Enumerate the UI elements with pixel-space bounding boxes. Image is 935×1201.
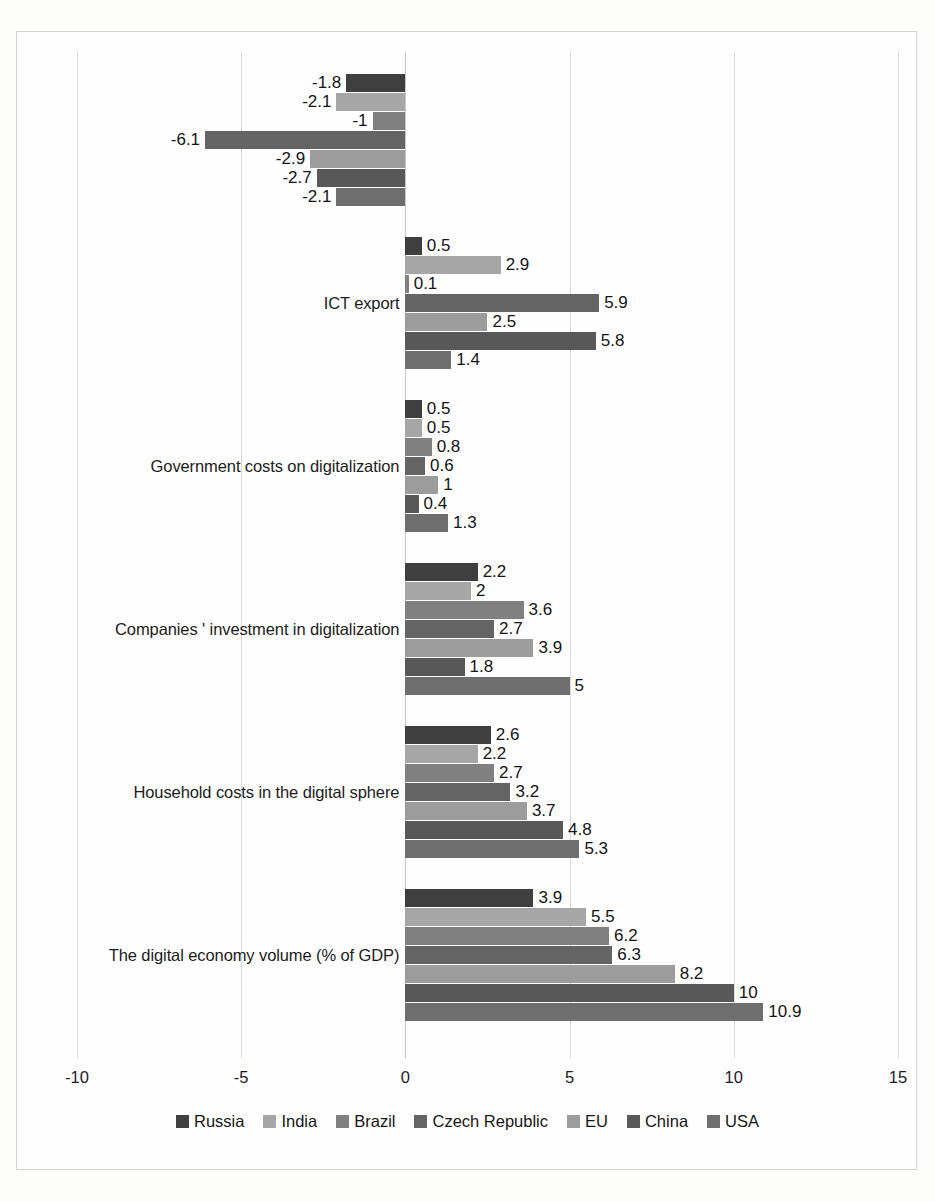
bar-eu[interactable]: 3.9 bbox=[405, 639, 533, 657]
bar-group: The digital economy volume (% of GDP)3.9… bbox=[17, 873, 918, 1036]
bar-value-label: 2.7 bbox=[499, 763, 523, 783]
bar-eu[interactable]: 1 bbox=[405, 476, 438, 494]
bar-value-label: 1.3 bbox=[453, 513, 477, 533]
bar-russia[interactable]: 2.6 bbox=[405, 726, 490, 744]
bar-value-label: 10 bbox=[739, 983, 758, 1003]
bar-brazil[interactable]: 6.2 bbox=[405, 927, 609, 945]
bar-russia[interactable]: 2.2 bbox=[405, 563, 477, 581]
bar-india[interactable]: 2 bbox=[405, 582, 471, 600]
bar-russia[interactable]: -1.8 bbox=[346, 74, 405, 92]
bar-value-label: -2.1 bbox=[302, 187, 331, 207]
bar-czech-republic[interactable]: 5.9 bbox=[405, 294, 599, 312]
legend-swatch-icon bbox=[567, 1115, 580, 1128]
bar-row: 0.5 bbox=[17, 237, 918, 255]
bar-row: 1.4 bbox=[17, 351, 918, 369]
bar-value-label: 2.7 bbox=[499, 619, 523, 639]
bar-row: -1.8 bbox=[17, 74, 918, 92]
bar-czech-republic[interactable]: -6.1 bbox=[205, 131, 405, 149]
bar-row: 2.2 bbox=[17, 745, 918, 763]
bar-value-label: 6.2 bbox=[614, 926, 638, 946]
bar-value-label: 3.9 bbox=[538, 638, 562, 658]
bar-value-label: -2.7 bbox=[282, 168, 311, 188]
bar-row: -2.1 bbox=[17, 188, 918, 206]
bar-row: 5.9 bbox=[17, 294, 918, 312]
bar-row: 2.5 bbox=[17, 313, 918, 331]
x-tick-label: 10 bbox=[725, 1068, 743, 1087]
bar-india[interactable]: -2.1 bbox=[336, 93, 405, 111]
bar-china[interactable]: 5.8 bbox=[405, 332, 595, 350]
bar-china[interactable]: 10 bbox=[405, 984, 733, 1002]
legend-item-brazil[interactable]: Brazil bbox=[336, 1112, 395, 1131]
bar-india[interactable]: 0.5 bbox=[405, 419, 421, 437]
bar-eu[interactable]: 2.5 bbox=[405, 313, 487, 331]
bar-value-label: 0.5 bbox=[427, 399, 451, 419]
bar-brazil[interactable]: 0.1 bbox=[405, 275, 408, 293]
legend-item-russia[interactable]: Russia bbox=[176, 1112, 244, 1131]
legend-item-usa[interactable]: USA bbox=[707, 1112, 759, 1131]
bar-china[interactable]: 4.8 bbox=[405, 821, 563, 839]
bar-row: 0.5 bbox=[17, 400, 918, 418]
bar-usa[interactable]: 5 bbox=[405, 677, 569, 695]
bar-value-label: 5.8 bbox=[601, 331, 625, 351]
bar-india[interactable]: 5.5 bbox=[405, 908, 586, 926]
bar-value-label: 1 bbox=[443, 475, 452, 495]
bar-brazil[interactable]: 0.8 bbox=[405, 438, 431, 456]
bar-usa[interactable]: 1.4 bbox=[405, 351, 451, 369]
bar-group: Household costs in the digital sphere2.6… bbox=[17, 710, 918, 873]
bar-eu[interactable]: 8.2 bbox=[405, 965, 674, 983]
bar-brazil[interactable]: 3.6 bbox=[405, 601, 523, 619]
legend-swatch-icon bbox=[707, 1115, 720, 1128]
bar-czech-republic[interactable]: 6.3 bbox=[405, 946, 612, 964]
bar-value-label: 3.2 bbox=[515, 782, 539, 802]
bar-group: ICT export0.52.90.15.92.55.81.4 bbox=[17, 221, 918, 384]
bar-row: 0.8 bbox=[17, 438, 918, 456]
bar-brazil[interactable]: 2.7 bbox=[405, 764, 494, 782]
chart-container: ICT import-1.8-2.1-1-6.1-2.9-2.7-2.1ICT … bbox=[16, 31, 917, 1170]
bar-row: 3.9 bbox=[17, 889, 918, 907]
bar-china[interactable]: 1.8 bbox=[405, 658, 464, 676]
bar-czech-republic[interactable]: 0.6 bbox=[405, 457, 425, 475]
legend-item-china[interactable]: China bbox=[627, 1112, 688, 1131]
bar-row: 5.5 bbox=[17, 908, 918, 926]
bar-value-label: 2 bbox=[476, 581, 485, 601]
bar-china[interactable]: -2.7 bbox=[317, 169, 406, 187]
bar-value-label: 3.6 bbox=[529, 600, 553, 620]
legend-swatch-icon bbox=[414, 1115, 427, 1128]
bar-usa[interactable]: 5.3 bbox=[405, 840, 579, 858]
bar-usa[interactable]: 1.3 bbox=[405, 514, 448, 532]
bar-group: Companies ' investment in digitalization… bbox=[17, 547, 918, 710]
legend-label: USA bbox=[725, 1112, 759, 1131]
bar-row: 0.1 bbox=[17, 275, 918, 293]
legend-item-eu[interactable]: EU bbox=[567, 1112, 608, 1131]
bar-row: -2.7 bbox=[17, 169, 918, 187]
bar-eu[interactable]: -2.9 bbox=[310, 150, 405, 168]
bar-row: 0.4 bbox=[17, 495, 918, 513]
bar-value-label: 0.1 bbox=[414, 274, 438, 294]
bar-czech-republic[interactable]: 2.7 bbox=[405, 620, 494, 638]
bar-row: 3.7 bbox=[17, 802, 918, 820]
x-tick-label: -10 bbox=[65, 1068, 89, 1087]
bar-india[interactable]: 2.9 bbox=[405, 256, 500, 274]
bar-row: 1 bbox=[17, 476, 918, 494]
bar-china[interactable]: 0.4 bbox=[405, 495, 418, 513]
bar-usa[interactable]: -2.1 bbox=[336, 188, 405, 206]
bar-eu[interactable]: 3.7 bbox=[405, 802, 527, 820]
legend-item-india[interactable]: India bbox=[263, 1112, 317, 1131]
bar-value-label: -6.1 bbox=[171, 130, 200, 150]
bar-value-label: -1.8 bbox=[312, 73, 341, 93]
bar-russia[interactable]: 0.5 bbox=[405, 237, 421, 255]
bar-brazil[interactable]: -1 bbox=[373, 112, 406, 130]
bar-value-label: 0.5 bbox=[427, 418, 451, 438]
bar-row: -2.9 bbox=[17, 150, 918, 168]
bar-value-label: 3.9 bbox=[538, 888, 562, 908]
bar-value-label: 6.3 bbox=[617, 945, 641, 965]
bar-russia[interactable]: 3.9 bbox=[405, 889, 533, 907]
bar-russia[interactable]: 0.5 bbox=[405, 400, 421, 418]
bar-india[interactable]: 2.2 bbox=[405, 745, 477, 763]
bar-row: 0.6 bbox=[17, 457, 918, 475]
bar-usa[interactable]: 10.9 bbox=[405, 1003, 763, 1021]
legend-label: Russia bbox=[194, 1112, 244, 1131]
bar-row: 8.2 bbox=[17, 965, 918, 983]
bar-czech-republic[interactable]: 3.2 bbox=[405, 783, 510, 801]
legend-item-czech-republic[interactable]: Czech Republic bbox=[414, 1112, 548, 1131]
